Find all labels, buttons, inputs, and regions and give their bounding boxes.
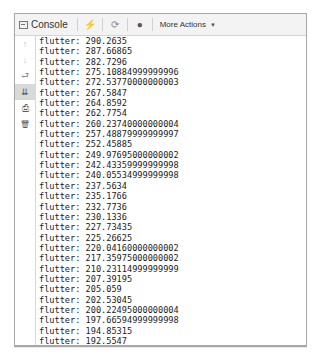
tab-console[interactable]: Console <box>15 14 72 35</box>
log-line: flutter: 257.48879999999997 <box>39 129 306 139</box>
toolbar-divider <box>102 18 103 31</box>
log-line: flutter: 202.53045 <box>39 295 306 305</box>
toolbar-divider <box>127 18 128 31</box>
log-line: flutter: 260.23740000000004 <box>39 119 306 129</box>
more-actions-label: More Actions <box>160 20 206 29</box>
lightning-icon[interactable]: ⚡ <box>83 17 97 33</box>
log-line: flutter: 200.22495000000004 <box>39 305 306 315</box>
log-line: flutter: 217.35975000000002 <box>39 253 306 263</box>
scroll-to-end-icon[interactable]: ⇊ <box>15 84 35 100</box>
log-line: flutter: 194.85315 <box>39 326 306 336</box>
log-line: flutter: 249.97695000000002 <box>39 150 306 160</box>
log-line: flutter: 262.7754 <box>39 108 306 118</box>
log-line: flutter: 210.23114999999999 <box>39 264 306 274</box>
log-line: flutter: 242.43359999999998 <box>39 160 306 170</box>
console-icon <box>19 21 28 29</box>
log-line: flutter: 207.39195 <box>39 274 306 284</box>
log-line: flutter: 264.8592 <box>39 98 306 108</box>
scroll-down-icon[interactable]: ↓ <box>15 52 35 68</box>
log-line: flutter: 275.10884999999996 <box>39 67 306 77</box>
print-icon[interactable]: ⎙ <box>15 100 35 116</box>
more-actions-button[interactable]: More Actions ▼ <box>160 20 216 29</box>
console-panel: Console ⚡ ⟳ ● More Actions ▼ ↑ ↓ ⮐ ⇊ ⎙ 🗑… <box>14 13 307 347</box>
log-line: flutter: 197.66594999999998 <box>39 315 306 325</box>
log-line: flutter: 252.45885 <box>39 139 306 149</box>
console-log[interactable]: flutter: 290.2635 flutter: 287.66865 flu… <box>39 36 306 345</box>
log-line: flutter: 192.5547 <box>39 336 306 345</box>
console-toolbar: Console ⚡ ⟳ ● More Actions ▼ <box>15 14 306 36</box>
log-line: flutter: 232.7736 <box>39 202 306 212</box>
caret-down-icon: ▼ <box>210 22 216 28</box>
log-line: flutter: 290.2635 <box>39 36 306 46</box>
log-line: flutter: 272.53770000000003 <box>39 77 306 87</box>
toolbar-divider <box>77 18 78 31</box>
log-line: flutter: 267.5847 <box>39 88 306 98</box>
log-line: flutter: 205.059 <box>39 284 306 294</box>
log-line: flutter: 287.66865 <box>39 46 306 56</box>
log-line: flutter: 220.04160000000002 <box>39 243 306 253</box>
soft-wrap-icon[interactable]: ⮐ <box>15 68 35 84</box>
toolbar-divider <box>152 18 153 31</box>
trash-icon[interactable]: 🗑 <box>15 116 35 132</box>
reload-icon[interactable]: ⟳ <box>108 17 122 33</box>
log-line: flutter: 225.26625 <box>39 233 306 243</box>
log-line: flutter: 230.1336 <box>39 212 306 222</box>
log-line: flutter: 240.05534999999998 <box>39 170 306 180</box>
log-line: flutter: 235.1766 <box>39 191 306 201</box>
log-line: flutter: 227.73435 <box>39 222 306 232</box>
log-line: flutter: 282.7296 <box>39 57 306 67</box>
device-icon[interactable]: ● <box>133 17 147 33</box>
console-sidebar: ↑ ↓ ⮐ ⇊ ⎙ 🗑 <box>15 36 36 345</box>
tab-console-label: Console <box>31 19 68 30</box>
scroll-up-icon[interactable]: ↑ <box>15 36 35 52</box>
log-line: flutter: 237.5634 <box>39 181 306 191</box>
